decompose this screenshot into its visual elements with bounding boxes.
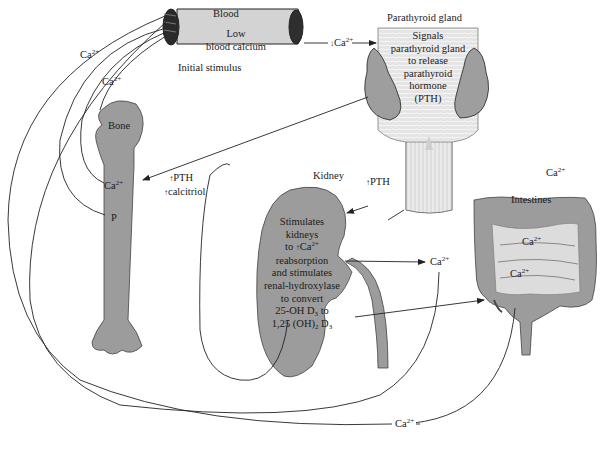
bone-illustration xyxy=(92,101,143,354)
blood-title: Blood xyxy=(213,8,239,20)
bottom-return-ca-label: Ca2+ xyxy=(393,418,416,430)
intestines-title: Intestines xyxy=(511,194,551,206)
intestine-ca-lower-label: Ca2+ xyxy=(510,268,529,280)
bone-p-label: P xyxy=(111,212,117,224)
kidney-pth-label: ↑PTH xyxy=(366,176,390,189)
kidney-description: Stimulates kidneys to ↑Ca2+ reabsorption… xyxy=(256,216,348,330)
intestine-ca-upper-label: Ca2+ xyxy=(522,236,541,248)
blood-box-label: Low blood calcium xyxy=(188,28,284,53)
intestine-top-ca-label: Ca2+ xyxy=(546,167,565,179)
ca-label-left-outer: Ca2+ xyxy=(80,49,99,61)
bone-ca-label: Ca2+ xyxy=(104,180,123,192)
ca-label-left-inner: Ca2+ xyxy=(102,76,121,88)
intestines-illustration xyxy=(474,197,597,355)
initial-stimulus-caption: Initial stimulus xyxy=(178,62,241,74)
parathyroid-description: Signals parathyroid gland to release par… xyxy=(380,30,476,106)
pth-calcitriol-label: ↑PTH ↑calcitriol xyxy=(164,172,214,199)
decreased-ca-label: ↓Ca2+ xyxy=(330,37,353,50)
kidney-title: Kidney xyxy=(313,170,344,182)
bone-title: Bone xyxy=(108,120,130,132)
kidney-ca-out-label: Ca2+ xyxy=(430,256,449,268)
parathyroid-title: Parathyroid gland xyxy=(387,12,462,24)
